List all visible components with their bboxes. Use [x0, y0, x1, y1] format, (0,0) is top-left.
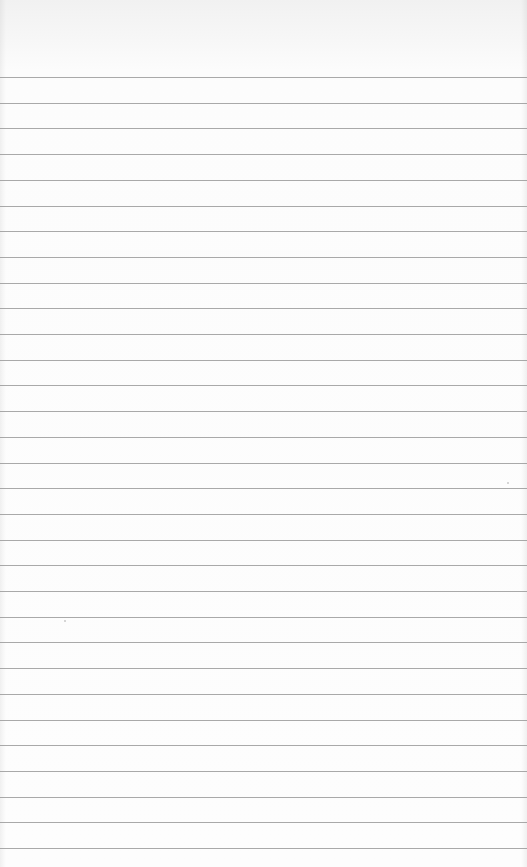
- ruled-line: [0, 797, 527, 798]
- ruled-line: [0, 206, 527, 207]
- ruled-line: [0, 154, 527, 155]
- ruled-line: [0, 231, 527, 232]
- ruled-line: [0, 822, 527, 823]
- ruled-line: [0, 642, 527, 643]
- ruled-line: [0, 385, 527, 386]
- ruled-line: [0, 437, 527, 438]
- ruled-line: [0, 308, 527, 309]
- ruled-line: [0, 411, 527, 412]
- ruled-line: [0, 720, 527, 721]
- ruled-line: [0, 463, 527, 464]
- ruled-line: [0, 257, 527, 258]
- paper-speck: [64, 620, 66, 622]
- paper-speck: [507, 482, 509, 484]
- ruled-line: [0, 103, 527, 104]
- ruled-line: [0, 180, 527, 181]
- ruled-line: [0, 694, 527, 695]
- ruled-line: [0, 668, 527, 669]
- ruled-line: [0, 488, 527, 489]
- ruled-line: [0, 360, 527, 361]
- lined-paper: [0, 0, 527, 867]
- ruled-line: [0, 128, 527, 129]
- ruled-line: [0, 617, 527, 618]
- ruled-line: [0, 514, 527, 515]
- ruled-line: [0, 540, 527, 541]
- ruled-line: [0, 745, 527, 746]
- ruled-line: [0, 771, 527, 772]
- ruled-line: [0, 848, 527, 849]
- ruled-line: [0, 77, 527, 78]
- ruled-line: [0, 591, 527, 592]
- ruled-line: [0, 565, 527, 566]
- ruled-line: [0, 334, 527, 335]
- ruled-line: [0, 283, 527, 284]
